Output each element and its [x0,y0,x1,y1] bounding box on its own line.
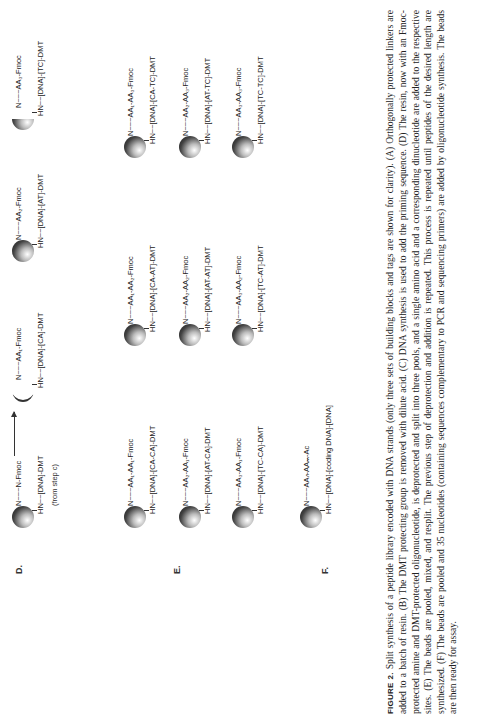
molecule-top-chain: N~~~AAₙ-AAₘ-Ac [302,446,311,506]
molecule-f-product: N~~~AAₙ-AAₘ-Ac HN~~[DNA]-[coding DNA]-[D… [296,308,336,528]
molecule-bottom-chain: HN~~[DNA]-[AT-AT]-DMT [203,247,212,332]
molecule-top-chain: N~~~AA₁-AA₁-Fmoc [126,439,135,506]
panel-label-f: F. [320,567,330,574]
molecule-e-1-2: N~~~AA₁-AA₂-Fmoc HN~~[DNA]-[CA-AT]-DMT [120,196,160,346]
molecule-top-chain: N~~~AA₃-AA₃-Fmoc [234,68,243,136]
resin-bead-icon [232,324,254,346]
molecule-top-chain: N~~~AA₂-AA₃-Fmoc [181,68,190,136]
molecule-top-chain: N~~~N-Fmoc [14,461,23,506]
molecule-e-2-2: N~~~AA₂-AA₂-Fmoc HN~~[DNA]-[AT-AT]-DMT [175,196,215,346]
resin-bead-icon [179,136,201,158]
molecule-bottom-chain: HN~~[DNA]-[CA-AT]-DMT [148,245,157,332]
molecule-top-chain: N~~~AA₂-AA₁-Fmoc [181,438,190,506]
figure-caption: FIGURE 2. Split synthesis of a peptide l… [384,10,459,714]
molecule-e-2-1: N~~~AA₂-AA₁-Fmoc HN~~[DNA]-[AT-CA]-DMT [175,378,215,528]
molecule-e-3-2: N~~~AA₃-AA₂-Fmoc HN~~[DNA]-[TC-AT]-DMT [228,196,268,346]
resin-bead-icon [124,136,146,158]
molecule-bottom-chain: HN~~[DNA]-[TC]-DMT [36,41,45,116]
molecule-bottom-chain: HN~~[DNA]-[CA]-DMT [36,313,45,388]
molecule-top-chain: N~~~AA₂-Fmoc [14,187,23,240]
molecule-top-chain: N~~~AA₁-AA₃-Fmoc [126,68,135,136]
molecule-bottom-chain: HN~~[DNA]-DMT [36,456,45,514]
resin-bead-icon [179,506,201,528]
molecule-bottom-chain: HN~~[DNA]-[TC-TC]-DMT [256,57,265,145]
resin-bead-icon [124,506,146,528]
resin-bead-icon [12,240,34,262]
caption-text: Split synthesis of a peptide library enc… [384,10,458,714]
molecule-bottom-chain: HN~~[DNA]-[AT]-DMT [36,174,45,248]
molecule-top-chain: N~~~AA₃-AA₂-Fmoc [234,256,243,324]
resin-bead-icon [12,108,34,130]
molecule-top-chain: N~~~AA₃-AA₁-Fmoc [234,438,243,506]
molecule-top-chain: N~~~AA₂-AA₂-Fmoc [181,256,190,324]
molecule-bottom-chain: HN~~[DNA]-[CA-CA]-DMT [148,426,157,514]
molecule-bottom-chain: HN~~[DNA]-[coding DNA]-[DNA] [324,405,333,514]
molecule-bottom-chain: HN~~[DNA]-[CA-TC]-DMT [148,56,157,144]
resin-bead-icon [12,378,34,402]
molecule-top-chain: N~~~AA₁-AA₂-Fmoc [126,256,135,324]
panel-label-d: D. [14,565,24,574]
resin-bead-icon [232,506,254,528]
resin-bead-icon [12,506,34,528]
resin-bead-icon [232,136,254,158]
from-step-note: (from step c) [50,464,59,506]
rotated-figure-page: D. N~~~N-Fmoc HN~~[DNA]-DMT (from step c… [0,0,477,724]
arrow-icon [14,412,15,456]
molecule-d-product-1: N~~~AA₁-Fmoc HN~~[DNA]-[CA]-DMT [8,252,48,402]
resin-bead-icon [124,324,146,346]
figure-label: FIGURE 2. [386,672,395,714]
molecule-e-2-3: N~~~AA₂-AA₃-Fmoc HN~~[DNA]-[AT-TC]-DMT [175,8,215,158]
resin-bead-icon [179,324,201,346]
molecule-d-product-2: N~~~AA₂-Fmoc HN~~[DNA]-[AT]-DMT [8,112,48,262]
molecule-top-chain: N~~~AA₁-Fmoc [14,328,23,380]
molecule-bottom-chain: HN~~[DNA]-[AT-TC]-DMT [203,58,212,144]
molecule-bottom-chain: HN~~[DNA]-[TC-CA]-DMT [256,426,265,514]
resin-bead-icon [300,506,322,528]
molecule-e-1-3: N~~~AA₁-AA₃-Fmoc HN~~[DNA]-[CA-TC]-DMT [120,8,160,158]
panel-label-e: E. [172,565,182,574]
molecule-e-3-3: N~~~AA₃-AA₃-Fmoc HN~~[DNA]-[TC-TC]-DMT [228,8,268,158]
molecule-bottom-chain: HN~~[DNA]-[TC-AT]-DMT [256,245,265,332]
molecule-d-product-3: N~~~AA₃-Fmoc HN~~[DNA]-[TC]-DMT [8,0,48,130]
molecule-bottom-chain: HN~~[DNA]-[AT-CA]-DMT [203,427,212,514]
molecule-e-3-1: N~~~AA₃-AA₁-Fmoc HN~~[DNA]-[TC-CA]-DMT [228,378,268,528]
molecule-e-1-1: N~~~AA₁-AA₁-Fmoc HN~~[DNA]-[CA-CA]-DMT [120,378,160,528]
molecule-top-chain: N~~~AA₃-Fmoc [14,55,23,108]
